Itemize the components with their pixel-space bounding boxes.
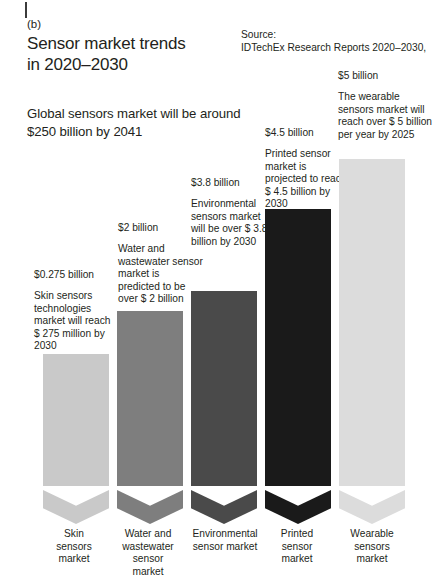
- category-axis: Skin sensors market Water and wastewater…: [0, 528, 440, 584]
- category-label-wearable: Wearable sensors market: [325, 528, 419, 566]
- bar-annotation-text: Skin sensors technologies market will re…: [34, 290, 114, 352]
- bar-annotation-text: Printed sensor market is projected to re…: [265, 148, 349, 210]
- bar-wearable: [339, 159, 405, 520]
- bar-base-left-facet: [117, 490, 150, 524]
- bar-value-label: $0.275 billion: [34, 269, 114, 281]
- panel-letter: (b): [27, 18, 41, 31]
- bar-base-right-facet: [76, 490, 109, 524]
- page-title: Sensor market trends in 2020–2030: [27, 33, 242, 75]
- source-citation: Source: IDTechEx Research Reports 2020–2…: [241, 29, 440, 54]
- bar-base-chevron: [339, 490, 405, 524]
- bar-base-chevron: [43, 490, 109, 524]
- infographic-chart: (b) Sensor market trends in 2020–2030 Gl…: [0, 0, 440, 584]
- bar-note-wearable: $5 billion The wearable sensors market w…: [338, 70, 434, 141]
- bar-water: [117, 311, 183, 520]
- bar-base-chevron: [117, 490, 183, 524]
- bar-base-right-facet: [224, 490, 257, 524]
- bar-annotation-text: The wearable sensors market will reach o…: [338, 91, 434, 141]
- bar-base-left-facet: [339, 490, 372, 524]
- bar-base-left-facet: [265, 490, 298, 524]
- bar-column: [265, 209, 331, 486]
- bar-value-label: $5 billion: [338, 70, 434, 82]
- bar-printed: [265, 209, 331, 520]
- bar-base-right-facet: [150, 490, 183, 524]
- bar-column: [339, 159, 405, 486]
- bar-base-left-facet: [191, 490, 224, 524]
- bar-value-label: $4.5 billion: [265, 127, 349, 139]
- bar-base-right-facet: [372, 490, 405, 524]
- crop-mark: [25, 2, 27, 18]
- bar-base-chevron: [191, 490, 257, 524]
- chart-subtitle: Global sensors market will be around $25…: [27, 105, 252, 140]
- bar-column: [43, 354, 109, 486]
- bar-skin: [43, 354, 109, 520]
- bar-note-skin: $0.275 billion Skin sensors technologies…: [34, 269, 114, 352]
- bar-base-left-facet: [43, 490, 76, 524]
- bar-column: [117, 311, 183, 486]
- bar-environmental: [191, 291, 257, 520]
- bar-column: [191, 291, 257, 486]
- bar-base-right-facet: [298, 490, 331, 524]
- bar-base-chevron: [265, 490, 331, 524]
- bar-note-printed: $4.5 billion Printed sensor market is pr…: [265, 127, 349, 210]
